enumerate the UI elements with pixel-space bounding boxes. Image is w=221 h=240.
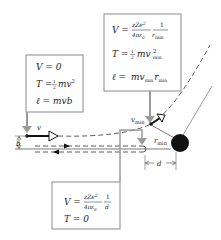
headon-return-arrow [53, 150, 59, 155]
svg-text:2: 2 [153, 48, 157, 54]
svg-text:T =: T = [112, 49, 128, 59]
svg-text:2: 2 [53, 85, 56, 90]
asymptote-line [180, 86, 212, 140]
svg-text:mv: mv [137, 49, 151, 59]
v-label: v [37, 124, 41, 132]
svg-text:T = 0: T = 0 [64, 214, 89, 224]
svg-text:V = 0: V = 0 [36, 62, 62, 72]
svg-text:1: 1 [160, 21, 164, 28]
svg-text:1: 1 [53, 79, 56, 84]
bottom-box-connector [120, 130, 142, 182]
bottom-box-pointer-head [137, 138, 147, 145]
svg-text:1: 1 [106, 193, 110, 200]
svg-text:ℓ =: ℓ = [112, 72, 126, 82]
svg-text:min: min [153, 55, 162, 60]
b-label: b [16, 140, 21, 148]
headon-incoming-arrow [64, 144, 70, 149]
svg-text:2: 2 [131, 55, 134, 60]
svg-text:1: 1 [131, 49, 134, 54]
nucleus [171, 134, 189, 152]
svg-text:T =: T = [36, 79, 52, 89]
scattering-diagram: V = zZe2 4πε0 1 rmin T = 1 2 mv 2 min ℓ … [0, 0, 221, 240]
d-label: d [157, 160, 162, 168]
velocity-arrow-head [49, 131, 58, 141]
svg-text:d: d [105, 203, 109, 210]
svg-text:V =: V = [112, 25, 129, 35]
rmin-label: rmin [154, 137, 168, 146]
left-box-pointer-head [22, 126, 32, 133]
svg-text:V =: V = [64, 197, 81, 207]
svg-text:ℓ = mvb: ℓ = mvb [36, 96, 73, 106]
vmin-label: vmin [131, 116, 145, 125]
